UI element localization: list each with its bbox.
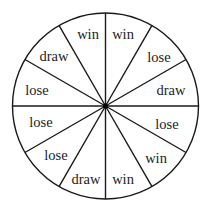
- sector-label-12: win: [77, 26, 100, 42]
- sector-label-1: win: [112, 26, 135, 42]
- sector-label-7: draw: [72, 171, 102, 187]
- sector-label-6: win: [112, 171, 135, 187]
- sector-label-2: lose: [147, 49, 170, 65]
- spinner-hub: [103, 103, 108, 108]
- spinner-wheel: win lose draw lose win win draw lose los…: [0, 0, 206, 211]
- sector-label-8: lose: [44, 147, 67, 163]
- sector-label-10: lose: [25, 82, 48, 98]
- sector-label-4: lose: [155, 116, 178, 132]
- sector-label-11: draw: [40, 48, 70, 64]
- sector-label-5: win: [145, 150, 168, 166]
- sector-label-3: draw: [157, 82, 187, 98]
- sector-label-9: lose: [29, 114, 52, 130]
